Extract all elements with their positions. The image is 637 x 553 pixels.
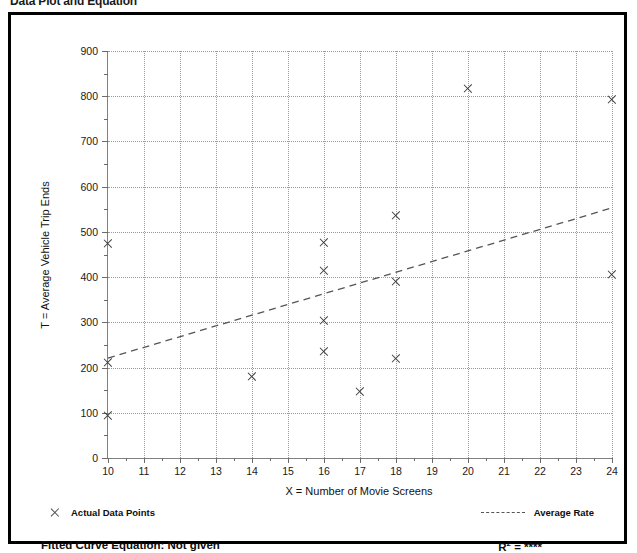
x-tick-minor <box>522 458 523 461</box>
y-tick-label: 900 <box>80 45 98 57</box>
data-point <box>463 83 474 94</box>
y-tick-label: 100 <box>80 407 98 419</box>
x-tick <box>216 458 217 463</box>
x-tick-minor <box>450 458 451 461</box>
x-tick <box>180 458 181 463</box>
x-tick-label: 22 <box>534 465 546 477</box>
x-tick-minor <box>558 458 559 461</box>
y-axis-title-text: T = Average Vehicle Trip Ends <box>39 181 51 328</box>
x-tick <box>468 458 469 463</box>
x-tick-label: 19 <box>426 465 438 477</box>
x-tick-label: 16 <box>318 465 330 477</box>
x-tick-minor <box>306 458 307 461</box>
r-squared-value: R2 = **** <box>498 539 542 553</box>
data-point <box>607 269 618 280</box>
x-tick <box>324 458 325 463</box>
y-tick-label: 800 <box>80 90 98 102</box>
x-tick-label: 24 <box>606 465 618 477</box>
x-tick <box>396 458 397 463</box>
x-tick-minor <box>414 458 415 461</box>
data-point <box>355 386 366 397</box>
x-tick <box>252 458 253 463</box>
figure-frame: T = Average Vehicle Trip Ends 1011121314… <box>8 12 627 544</box>
y-tick-label: 0 <box>92 452 98 464</box>
x-tick-minor <box>162 458 163 461</box>
x-tick-minor <box>270 458 271 461</box>
x-tick <box>360 458 361 463</box>
plot-area: 1011121314151617181920212223249008007006… <box>107 51 612 459</box>
x-tick-minor <box>594 458 595 461</box>
data-point <box>319 265 330 276</box>
x-tick-label: 10 <box>102 465 114 477</box>
x-tick-label: 21 <box>498 465 510 477</box>
y-tick <box>102 458 108 459</box>
x-tick-minor <box>198 458 199 461</box>
legend-item-average-rate: Average Rate <box>481 507 594 518</box>
x-tick <box>144 458 145 463</box>
data-point <box>319 315 330 326</box>
x-tick <box>108 458 109 463</box>
x-tick-label: 14 <box>246 465 258 477</box>
r-squared-prefix: R <box>498 541 506 553</box>
trend-line-segment <box>108 208 612 358</box>
x-tick-minor <box>234 458 235 461</box>
legend: Actual Data Points Average Rate <box>11 507 624 529</box>
x-marker-icon <box>49 507 60 518</box>
x-tick-minor <box>378 458 379 461</box>
legend-label-average-rate: Average Rate <box>534 507 594 518</box>
data-point <box>319 237 330 248</box>
x-tick <box>612 458 613 463</box>
gridline-vertical <box>612 51 613 458</box>
dashed-line-icon <box>481 512 525 513</box>
data-point <box>103 238 114 249</box>
x-tick-minor <box>342 458 343 461</box>
data-point <box>103 410 114 421</box>
y-tick-label: 700 <box>80 135 98 147</box>
y-tick-label: 500 <box>80 226 98 238</box>
x-tick-label: 11 <box>139 465 150 477</box>
r-squared-number: = **** <box>511 541 542 553</box>
fitted-curve-equation: Fitted Curve Equation: Not given <box>41 539 220 551</box>
x-tick-label: 15 <box>282 465 294 477</box>
x-tick <box>432 458 433 463</box>
data-point <box>391 353 402 364</box>
legend-item-actual-data-points: Actual Data Points <box>49 507 155 518</box>
x-tick <box>288 458 289 463</box>
data-point <box>247 371 258 382</box>
page-title: Data Plot and Equation <box>10 0 137 8</box>
footer: Fitted Curve Equation: Not given R2 = **… <box>11 539 624 553</box>
x-tick <box>576 458 577 463</box>
data-point <box>319 346 330 357</box>
x-tick-minor <box>486 458 487 461</box>
x-tick <box>540 458 541 463</box>
y-tick-label: 400 <box>80 271 98 283</box>
legend-label-actual-data-points: Actual Data Points <box>71 507 155 518</box>
data-point <box>607 94 618 105</box>
y-axis-title: T = Average Vehicle Trip Ends <box>37 51 53 458</box>
x-tick-minor <box>126 458 127 461</box>
data-point <box>103 357 114 368</box>
y-tick-label: 300 <box>80 316 98 328</box>
x-tick-label: 13 <box>210 465 222 477</box>
y-tick-label: 200 <box>80 362 98 374</box>
data-point <box>391 276 402 287</box>
y-tick-label: 600 <box>80 181 98 193</box>
x-tick-label: 17 <box>354 465 366 477</box>
x-tick-label: 18 <box>390 465 402 477</box>
x-axis-title: X = Number of Movie Screens <box>107 485 611 497</box>
x-tick-label: 20 <box>462 465 474 477</box>
x-tick-label: 12 <box>174 465 186 477</box>
data-point <box>391 210 402 221</box>
x-tick <box>504 458 505 463</box>
x-tick-label: 23 <box>570 465 582 477</box>
